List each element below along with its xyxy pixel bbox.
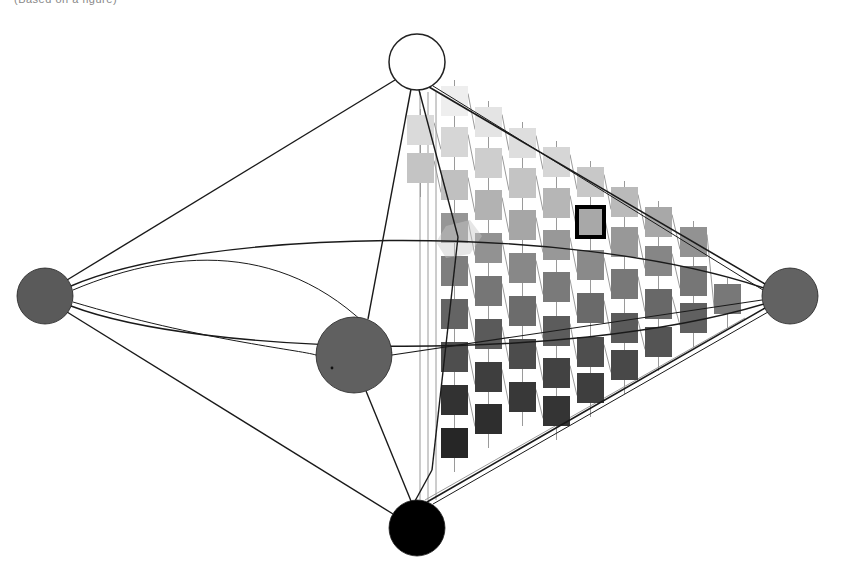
color-swatch xyxy=(577,373,604,403)
highlighted-swatch xyxy=(577,207,604,237)
edge-curve xyxy=(73,302,316,355)
lattice-line xyxy=(468,393,475,427)
lattice-line xyxy=(672,297,680,326)
color-swatch xyxy=(543,272,570,302)
color-swatch xyxy=(577,337,604,367)
node-center-grey xyxy=(316,317,392,393)
color-swatch xyxy=(577,293,604,323)
lattice-line xyxy=(536,347,543,381)
lattice-line xyxy=(468,178,475,213)
lattice-line xyxy=(604,258,611,292)
lattice-line xyxy=(570,280,577,316)
color-swatch xyxy=(441,299,468,329)
color-swatch xyxy=(441,127,468,157)
lattice-line xyxy=(570,366,577,396)
lattice-line xyxy=(570,238,577,273)
color-swatch xyxy=(475,362,502,392)
color-swatch xyxy=(441,385,468,415)
lattice-line xyxy=(502,156,509,191)
lattice-line xyxy=(468,350,475,385)
lattice-line xyxy=(502,241,509,276)
lattice-line xyxy=(707,235,714,307)
node-bottom-black xyxy=(389,500,445,556)
lattice-line xyxy=(638,321,645,350)
lattice-line xyxy=(536,218,543,253)
color-swatch xyxy=(407,153,434,183)
node-right-grey xyxy=(762,268,818,324)
color-swatch xyxy=(611,227,638,257)
color-swatch xyxy=(543,230,570,260)
lattice-line xyxy=(434,161,441,193)
node-left-grey xyxy=(17,268,73,324)
color-swatch xyxy=(509,128,536,158)
color-swatch xyxy=(441,428,468,458)
color-swatch xyxy=(509,253,536,283)
color-swatch xyxy=(509,382,536,412)
lattice-line xyxy=(536,261,543,295)
color-swatch xyxy=(543,358,570,388)
edge-line xyxy=(415,470,432,501)
color-swatch xyxy=(441,86,468,116)
lattice-line xyxy=(502,370,509,405)
color-swatch xyxy=(645,327,672,357)
lattice-line xyxy=(468,135,475,171)
edge-line xyxy=(368,89,411,319)
lattice-line xyxy=(434,123,441,150)
color-swatch xyxy=(611,269,638,299)
lattice-line xyxy=(502,284,509,319)
color-swatch xyxy=(611,350,638,380)
color-swatch xyxy=(680,303,707,333)
color-swatch xyxy=(475,276,502,306)
color-swatch xyxy=(509,210,536,240)
lattice-line xyxy=(536,390,543,419)
color-swatch xyxy=(509,296,536,326)
color-swatch xyxy=(714,284,741,314)
color-swatch xyxy=(611,313,638,343)
color-solid-diagram xyxy=(0,0,850,578)
lattice-line xyxy=(638,235,645,269)
color-swatch xyxy=(577,250,604,280)
lattice-line xyxy=(536,176,543,211)
color-swatch xyxy=(509,168,536,198)
node-top-white xyxy=(389,34,445,90)
color-swatch xyxy=(543,188,570,218)
edge-line xyxy=(366,391,411,501)
lattice-line xyxy=(604,345,611,373)
lattice-line xyxy=(468,264,475,299)
color-swatch-grid xyxy=(407,86,741,458)
lattice-line xyxy=(468,307,475,342)
color-swatch xyxy=(475,148,502,178)
lattice-line xyxy=(672,254,680,289)
lattice-line xyxy=(502,198,509,233)
lattice-line xyxy=(638,277,645,312)
center-dot xyxy=(331,367,334,370)
color-swatch xyxy=(475,404,502,434)
color-swatch xyxy=(441,170,468,200)
lattice-line xyxy=(604,301,611,336)
color-swatch xyxy=(475,190,502,220)
